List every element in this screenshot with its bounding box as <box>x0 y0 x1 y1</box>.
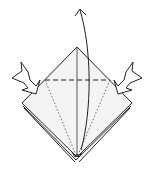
push-arrow-right-icon <box>114 62 142 94</box>
origami-diagram <box>0 0 154 170</box>
push-arrow-left-icon <box>12 62 40 94</box>
